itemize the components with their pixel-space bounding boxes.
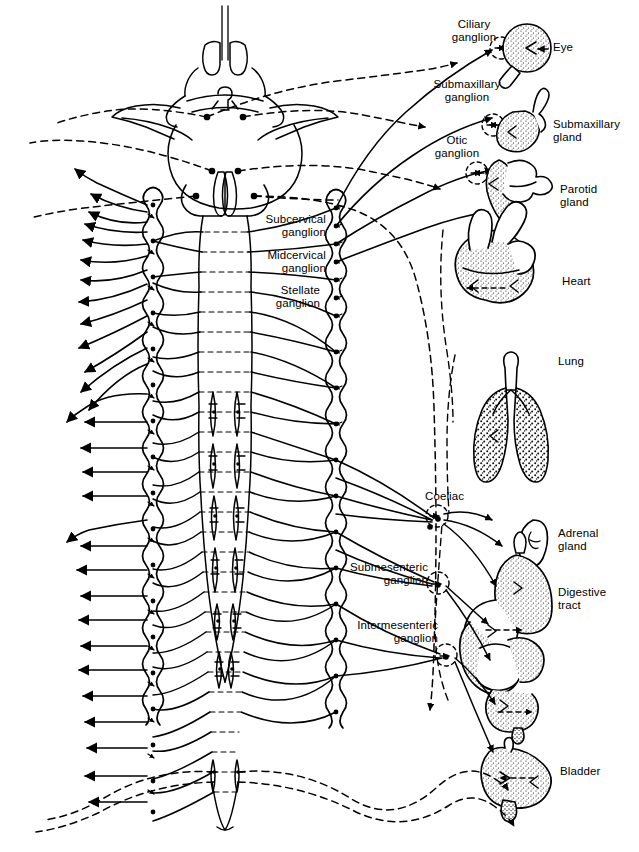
coeliac-label: Coeliac bbox=[425, 490, 464, 503]
digestive-tract-label: Digestive tract bbox=[558, 586, 606, 612]
left-efferent-arrows bbox=[67, 169, 147, 802]
diagram-canvas bbox=[0, 0, 639, 852]
intermesenteric-ganglion-label: Intermesenteric ganglion bbox=[338, 619, 438, 645]
lung-organ bbox=[474, 352, 549, 482]
otic-ganglion-label: Otic ganglion bbox=[426, 134, 488, 160]
vagus-descending bbox=[441, 230, 455, 513]
heart-label: Heart bbox=[562, 275, 591, 288]
left-chain-ganglia bbox=[148, 203, 155, 815]
lung-label: Lung bbox=[558, 355, 584, 368]
bladder-label: Bladder bbox=[560, 765, 600, 778]
parasympathetic-cranial bbox=[30, 63, 457, 710]
midcervical-ganglion-label: Midcervical ganglion bbox=[258, 249, 326, 275]
stellate-ganglion-label: Stellate ganglion bbox=[262, 284, 320, 310]
ciliary-ganglion-label: Ciliary ganglion bbox=[437, 18, 511, 44]
submaxillary-gland-label: Submaxillary gland bbox=[553, 118, 620, 144]
parotid-gland-label: Parotid gland bbox=[560, 183, 597, 209]
submesenteric-ganglion-label: Submesenteric ganglion bbox=[338, 561, 428, 587]
heart-organ bbox=[455, 202, 535, 303]
subcervical-ganglion-label: Subcervical ganglion bbox=[258, 213, 326, 239]
cord-segment-lines bbox=[199, 232, 251, 792]
eye-label: Eye bbox=[553, 41, 573, 54]
adrenal-gland-label: Adrenal gland bbox=[558, 527, 598, 553]
spinal-cord bbox=[198, 216, 252, 830]
submaxillary-ganglion-label: Submaxillary ganglion bbox=[421, 78, 513, 104]
anatomical-diagram: Ciliary ganglion Eye Submaxillary gangli… bbox=[0, 0, 639, 852]
